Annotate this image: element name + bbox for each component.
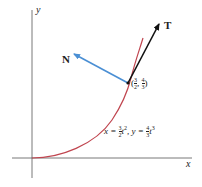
eq-sep: , y = xyxy=(127,126,146,136)
point-x-num: 3 xyxy=(134,77,137,84)
point-label: (32, 43) xyxy=(131,77,148,90)
eq-y-exp: 3 xyxy=(152,125,155,131)
diagram-svg xyxy=(0,0,202,187)
x-axis-label: x xyxy=(186,158,190,169)
parametric-curve xyxy=(32,38,143,158)
point-x-den: 2 xyxy=(134,84,137,90)
diagram-canvas: y x T N (32, 43) x = 32t2, y = 43t3 xyxy=(0,0,202,187)
tangent-label: T xyxy=(164,19,171,31)
normal-label: N xyxy=(62,53,70,65)
normal-vector xyxy=(74,54,128,83)
point-y-num: 4 xyxy=(142,77,145,84)
curve-equation: x = 32t2, y = 43t3 xyxy=(104,125,155,138)
y-axis-label: y xyxy=(36,4,40,15)
tangent-vector xyxy=(128,24,159,83)
eq-x-part: x = xyxy=(104,126,119,136)
point-y-den: 3 xyxy=(142,84,145,90)
point-marker xyxy=(126,81,129,84)
